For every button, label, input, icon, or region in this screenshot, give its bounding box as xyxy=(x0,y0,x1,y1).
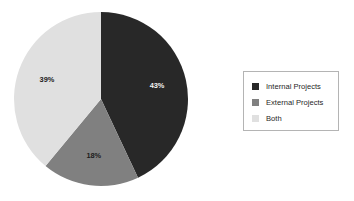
chart-legend: Internal Projects External Projects Both xyxy=(243,71,339,131)
pie-plot-area: 43% 18% 39% xyxy=(14,11,190,189)
legend-item-label: Internal Projects xyxy=(266,83,321,91)
legend-color-swatch-icon xyxy=(252,99,259,106)
pie-chart-figure: 43% 18% 39% Internal Projects External P… xyxy=(0,0,354,201)
legend-color-swatch-icon xyxy=(252,83,259,90)
legend-item-both[interactable]: Both xyxy=(252,111,338,126)
legend-color-swatch-icon xyxy=(252,115,259,122)
legend-item-external-projects[interactable]: External Projects xyxy=(252,95,338,110)
pie-label-internal-projects: 43% xyxy=(150,81,165,90)
legend-item-label: Both xyxy=(266,115,282,123)
legend-item-internal-projects[interactable]: Internal Projects xyxy=(252,79,338,94)
pie-svg: 43% 18% 39% xyxy=(14,11,190,189)
pie-label-both: 39% xyxy=(40,75,55,84)
legend-item-label: External Projects xyxy=(266,99,323,107)
pie-label-external-projects: 18% xyxy=(86,151,101,160)
